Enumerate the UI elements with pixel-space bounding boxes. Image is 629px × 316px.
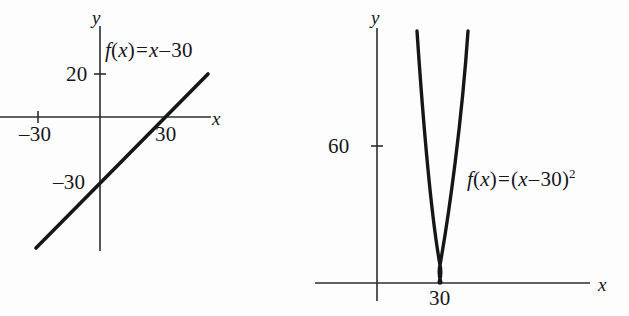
parabola-function-formula: f(x)=(x–30)2 bbox=[467, 167, 576, 190]
y-axis-label: y bbox=[371, 8, 379, 27]
y-tick-label-minus30: –30 bbox=[53, 172, 85, 193]
formula-minus: – bbox=[528, 167, 541, 191]
formula-paren-close: ) bbox=[490, 167, 497, 191]
formula-group-close: ) bbox=[562, 167, 569, 191]
line-graph-panel: y x 20 –30 –30 30 f(x)=x–30 bbox=[0, 0, 315, 316]
formula-rhs-x: x bbox=[149, 38, 159, 62]
x-axis-label: x bbox=[212, 109, 220, 128]
formula-arg-x: x bbox=[118, 38, 128, 62]
x-tick-label-30: 30 bbox=[155, 124, 177, 145]
formula-rhs-x: x bbox=[518, 167, 528, 191]
x-axis-label: x bbox=[598, 275, 606, 294]
x-tick-label-30: 30 bbox=[429, 288, 451, 309]
formula-paren-close: ) bbox=[128, 38, 135, 62]
y-tick-label-60: 60 bbox=[328, 136, 350, 157]
parabola-plot-curve bbox=[417, 31, 468, 283]
parabola-graph-panel: y x 60 30 f(x)=(x–30)2 bbox=[315, 0, 629, 316]
y-tick-label-20: 20 bbox=[66, 64, 88, 85]
parabola-graph-canvas bbox=[315, 0, 629, 316]
formula-constant: 30 bbox=[171, 38, 192, 62]
formula-exponent: 2 bbox=[569, 166, 576, 181]
formula-arg-x: x bbox=[480, 167, 490, 191]
line-function-formula: f(x)=x–30 bbox=[105, 40, 193, 61]
x-tick-label-minus30: –30 bbox=[19, 124, 51, 145]
formula-equals: = bbox=[135, 38, 149, 62]
y-axis-label: y bbox=[92, 8, 100, 27]
formula-minus: – bbox=[159, 38, 172, 62]
line-plot-curve bbox=[36, 74, 208, 248]
formula-constant: 30 bbox=[540, 167, 561, 191]
figure-two-function-graphs: y x 20 –30 –30 30 f(x)=x–30 y x 60 30 f(… bbox=[0, 0, 629, 316]
formula-equals: = bbox=[497, 167, 511, 191]
